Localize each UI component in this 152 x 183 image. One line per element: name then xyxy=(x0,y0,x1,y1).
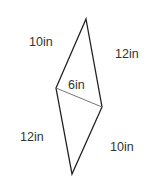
label-diagonal: 6in xyxy=(68,78,85,92)
kite-diagram: 10in 12in 6in 12in 10in xyxy=(0,0,152,183)
label-top-left-side: 10in xyxy=(29,35,53,49)
quadrilateral-outline xyxy=(56,19,102,174)
label-bottom-left-side: 12in xyxy=(20,130,44,144)
label-top-right-side: 12in xyxy=(115,47,139,61)
label-bottom-right-side: 10in xyxy=(110,140,134,154)
